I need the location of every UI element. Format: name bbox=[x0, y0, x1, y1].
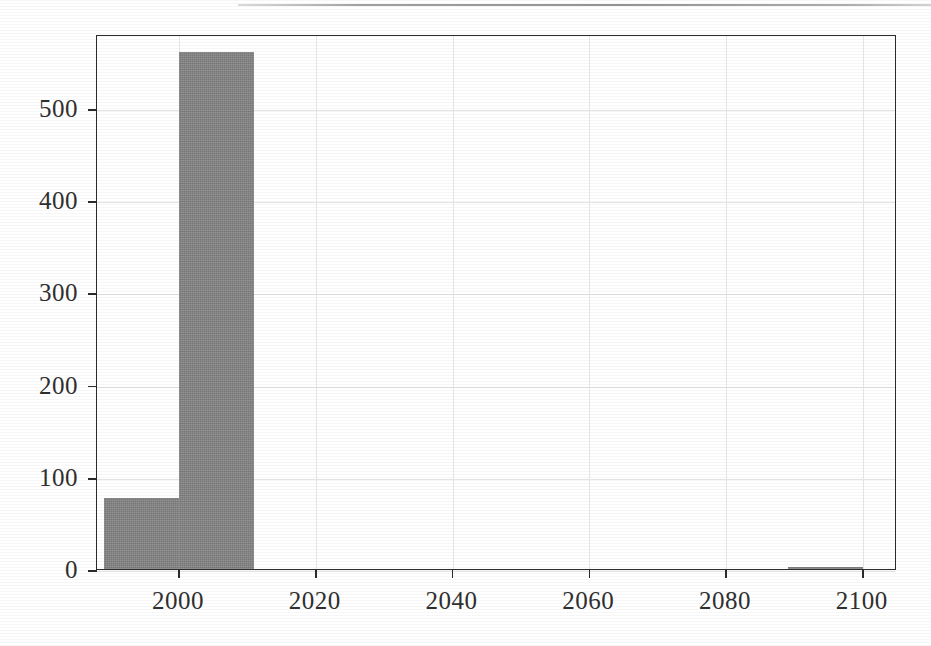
histogram-bar bbox=[104, 498, 179, 569]
x-axis-tick-label: 2000 bbox=[118, 588, 238, 613]
plot-axes-frame bbox=[96, 35, 896, 570]
y-axis-tick bbox=[88, 293, 97, 295]
histogram-figure: 0100200300400500 20002020204020602080210… bbox=[0, 0, 931, 646]
gridline-vertical bbox=[726, 36, 727, 569]
x-axis-tick bbox=[452, 569, 454, 578]
y-axis-tick-label: 200 bbox=[39, 373, 78, 398]
y-axis-tick bbox=[88, 570, 97, 572]
x-axis-tick-label: 2080 bbox=[665, 588, 785, 613]
x-axis-tick-label: 2100 bbox=[802, 588, 922, 613]
gridline-vertical bbox=[589, 36, 590, 569]
histogram-bar bbox=[788, 567, 863, 569]
x-axis-tick-label: 2020 bbox=[255, 588, 375, 613]
x-axis-tick bbox=[589, 569, 591, 578]
x-axis-tick bbox=[725, 569, 727, 578]
gridline-vertical bbox=[453, 36, 454, 569]
gridline-vertical bbox=[316, 36, 317, 569]
gridline-vertical bbox=[863, 36, 864, 569]
y-axis-tick bbox=[88, 386, 97, 388]
histogram-bar bbox=[179, 52, 254, 569]
x-axis-tick-label: 2040 bbox=[392, 588, 512, 613]
y-axis-tick-label: 100 bbox=[39, 465, 78, 490]
y-axis-tick-label: 0 bbox=[65, 557, 78, 582]
y-axis-tick bbox=[88, 201, 97, 203]
gridline-horizontal bbox=[97, 571, 895, 572]
x-axis-tick bbox=[862, 569, 864, 578]
x-axis-tick-label: 2060 bbox=[528, 588, 648, 613]
y-axis-tick-label: 400 bbox=[39, 188, 78, 213]
x-axis-tick bbox=[178, 569, 180, 578]
y-axis-tick bbox=[88, 109, 97, 111]
x-axis-tick bbox=[315, 569, 317, 578]
figure-page: 0100200300400500 20002020204020602080210… bbox=[0, 0, 931, 646]
y-axis-tick-label: 500 bbox=[39, 96, 78, 121]
y-axis-tick-label: 300 bbox=[39, 280, 78, 305]
y-axis-tick bbox=[88, 478, 97, 480]
